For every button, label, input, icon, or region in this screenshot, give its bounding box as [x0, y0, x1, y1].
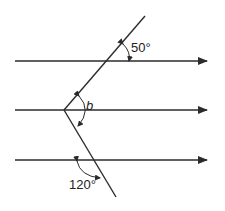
- diagram-canvas: 50° b 120°: [0, 0, 225, 211]
- angle-arc-b: [78, 96, 85, 126]
- angle-label-50: 50°: [131, 40, 151, 55]
- transversal-upper-segment: [64, 16, 145, 110]
- diagram-svg: 50° b 120°: [0, 0, 225, 211]
- angle-label-120: 120°: [69, 177, 96, 192]
- angle-label-b: b: [86, 98, 93, 113]
- angle-arc-50: [123, 44, 129, 61]
